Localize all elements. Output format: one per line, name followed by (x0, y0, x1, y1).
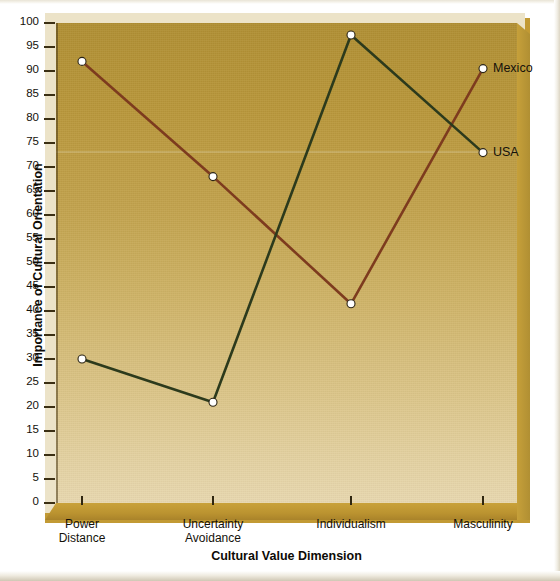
page-canvas: 0510152025303540455055606570758085909510… (0, 0, 560, 581)
series-line-usa (82, 35, 483, 402)
data-point-marker (479, 149, 487, 157)
series-label-usa: USA (493, 145, 519, 159)
data-point-marker (347, 300, 355, 308)
data-point-marker (78, 355, 86, 363)
data-point-marker (209, 173, 217, 181)
data-point-marker (479, 65, 487, 73)
series-label-mexico: Mexico (493, 61, 533, 75)
data-point-marker (78, 57, 86, 65)
line-chart-figure: 0510152025303540455055606570758085909510… (0, 0, 560, 581)
data-point-marker (209, 398, 217, 406)
data-series-layer (0, 0, 560, 581)
data-point-marker (347, 31, 355, 39)
